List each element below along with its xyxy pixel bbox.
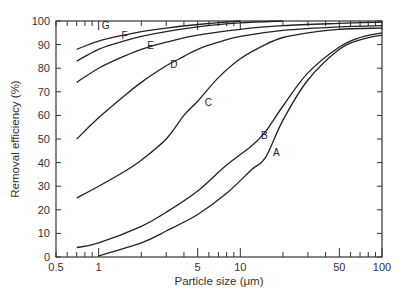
y-tick-label: 60 (38, 109, 50, 121)
x-tick-label: 100 (373, 261, 391, 273)
efficiency-curves (77, 21, 382, 256)
plot-frame (56, 21, 382, 257)
y-tick-label: 100 (32, 15, 50, 27)
y-tick-label: 80 (38, 62, 50, 74)
curve-label-d: D (170, 59, 177, 70)
y-tick-label: 10 (38, 227, 50, 239)
removal-efficiency-chart: 01020304050607080901000.5151050100 ABCDE… (0, 0, 401, 302)
curve-label-e: E (147, 40, 154, 51)
y-tick-label: 40 (38, 157, 50, 169)
curve-d (77, 26, 382, 139)
curve-c (77, 28, 382, 198)
y-tick-label: 50 (38, 133, 50, 145)
y-axis-title: Removal efficiency (%) (9, 80, 21, 198)
curve-labels: ABCDEFG (102, 20, 280, 157)
x-tick-label: 0.5 (48, 261, 63, 273)
x-axis-title: Particle size (μm) (174, 275, 263, 287)
x-tick-label: 1 (96, 261, 102, 273)
curve-label-b: B (261, 130, 268, 141)
x-tick-label: 50 (333, 261, 345, 273)
y-tick-label: 20 (38, 204, 50, 216)
curve-label-f: F (122, 30, 128, 41)
plot-axes: 01020304050607080901000.5151050100 (32, 15, 392, 273)
x-tick-label: 5 (195, 261, 201, 273)
curve-label-c: C (205, 97, 212, 108)
y-tick-label: 90 (38, 39, 50, 51)
y-tick-label: 70 (38, 86, 50, 98)
x-tick-label: 10 (234, 261, 246, 273)
curve-b (77, 33, 382, 248)
curve-a (99, 35, 382, 256)
curve-label-a: A (273, 147, 280, 158)
curve-label-g: G (102, 20, 110, 31)
y-tick-label: 30 (38, 180, 50, 192)
